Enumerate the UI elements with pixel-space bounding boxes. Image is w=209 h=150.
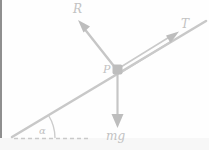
label-point-P: P [103,64,110,75]
incline-line [12,21,206,137]
label-weight-mg: mg [106,130,125,142]
force-diagram-figure: R T P mg α [0,0,209,150]
label-tension-T: T [181,18,189,30]
vector-mg-arrowhead [112,114,124,128]
vector-T-shaft-upper [120,36,171,68]
vector-T-shaft-lower [121,41,172,73]
vector-R-shaft [83,27,117,70]
vector-R-arrowhead [78,20,90,33]
label-angle-alpha: α [39,126,46,136]
angle-arc [49,116,55,139]
label-normal-force-R: R [73,3,82,15]
block-at-point-P [113,65,123,75]
